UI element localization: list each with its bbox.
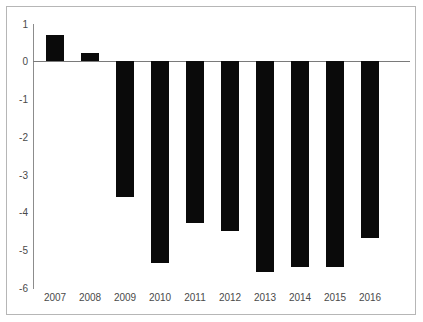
x-tick-2009: 2009 [108,292,142,303]
y-tick-0: 0 [22,56,28,67]
bar-2016 [361,61,379,238]
x-tick-2014: 2014 [283,292,317,303]
y-axis-tick-labels: 1 0 -1 -2 -3 -4 -5 -6 [0,0,28,322]
bar-2012 [221,61,239,231]
y-tick-m3: -3 [19,170,28,181]
x-tick-2008: 2008 [73,292,107,303]
y-axis-line [33,24,34,289]
x-tick-2011: 2011 [178,292,212,303]
y-tick-m5: -5 [19,245,28,256]
x-tick-2007: 2007 [38,292,72,303]
bar-2010 [151,61,169,263]
x-tick-2012: 2012 [213,292,247,303]
chart-screenshot: 1 0 -1 -2 -3 -4 -5 -6 2007 2008 2009 201… [0,0,423,322]
bar-2015 [326,61,344,267]
bar-2007 [46,35,64,61]
y-tick-1: 1 [22,19,28,30]
x-tick-2013: 2013 [248,292,282,303]
y-tick-m2: -2 [19,132,28,143]
bar-2009 [116,61,134,197]
y-tick-m1: -1 [19,94,28,105]
bar-2011 [186,61,204,223]
bar-2013 [256,61,274,272]
bar-2014 [291,61,309,267]
y-tick-m6: -6 [19,283,28,294]
chart-frame [6,6,416,315]
x-tick-2010: 2010 [143,292,177,303]
x-tick-2016: 2016 [353,292,387,303]
x-tick-2015: 2015 [318,292,352,303]
bar-2008 [81,53,99,61]
y-tick-m4: -4 [19,207,28,218]
